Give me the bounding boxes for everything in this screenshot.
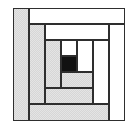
strip-left-mid: [29, 24, 45, 104]
strip-left-inner: [45, 40, 61, 88]
strip-bottom-mid: [45, 88, 93, 104]
log-cabin-block: [13, 8, 125, 121]
strip-top-inner: [61, 40, 77, 56]
strip-center: [61, 56, 77, 72]
strip-top-outer: [29, 8, 125, 24]
strip-top-mid: [45, 24, 109, 40]
strip-bottom-inner: [61, 72, 93, 88]
strip-right-mid: [93, 40, 109, 104]
strip-right-outer: [109, 24, 125, 121]
strip-bottom-outer: [29, 104, 109, 121]
strip-left-outer: [13, 8, 29, 121]
strip-right-inner: [77, 40, 93, 72]
